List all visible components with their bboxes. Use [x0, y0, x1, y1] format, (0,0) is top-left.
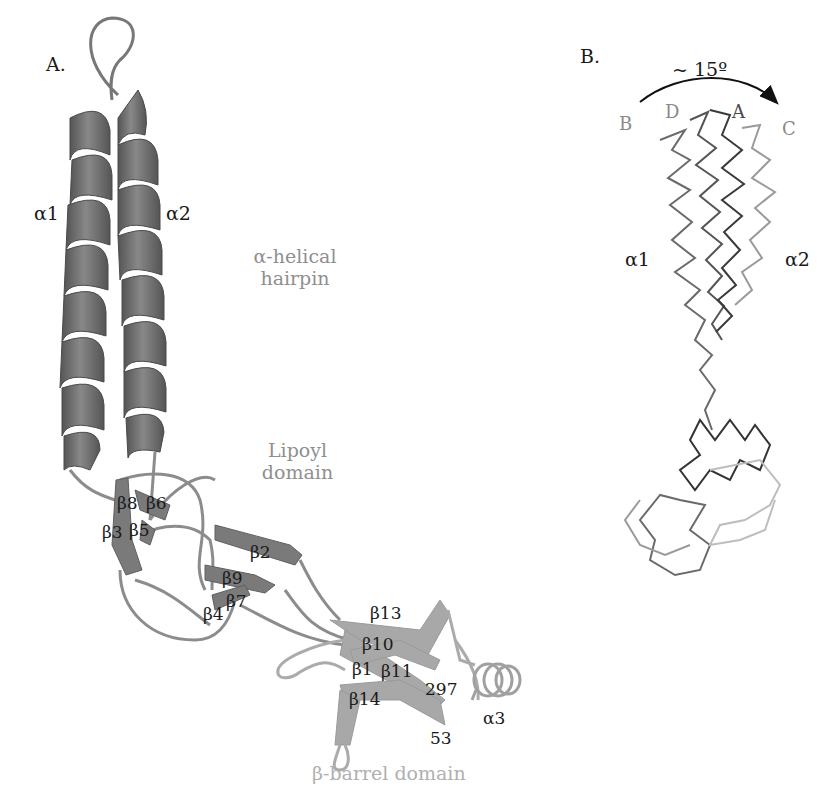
lower-domain-mid — [640, 495, 710, 575]
lipoyl-line1: Lipoyl — [255, 440, 340, 462]
alpha3-label: α3 — [483, 710, 505, 727]
hairpin-line2: hairpin — [245, 268, 345, 290]
chain-d-trace — [690, 112, 724, 340]
residue-53: 53 — [430, 730, 452, 747]
lipoyl-domain-label: Lipoyl domain — [255, 440, 340, 484]
chain-b-trace — [660, 130, 715, 430]
strand-b3: β3 — [102, 524, 123, 541]
strand-b10: β10 — [362, 636, 393, 653]
rotation-arrow — [640, 78, 776, 102]
strand-b5: β5 — [129, 522, 150, 539]
residue-297: 297 — [425, 681, 457, 698]
panel-b-label: B. — [580, 47, 600, 66]
alpha-helical-hairpin-label: α-helical hairpin — [245, 246, 345, 290]
panel-a-label: A. — [46, 55, 66, 74]
hairpin-line1: α-helical — [245, 246, 345, 268]
chain-b-label: B — [619, 115, 632, 133]
strand-b11: β11 — [381, 663, 412, 680]
strand-b7: β7 — [226, 593, 247, 610]
chain-c-label: C — [782, 120, 796, 138]
chain-a-label: A — [732, 103, 745, 121]
strand-b14: β14 — [349, 691, 380, 708]
panel-b-alpha1-label: α1 — [625, 250, 650, 269]
strand-b9: β9 — [222, 570, 243, 587]
chain-d-label: D — [665, 103, 679, 121]
rotation-angle-label: ~ 15º — [672, 60, 727, 79]
panel-b-superposition — [0, 0, 835, 805]
strand-b1: β1 — [352, 661, 373, 678]
alpha1-label: α1 — [34, 204, 59, 223]
strand-b2: β2 — [250, 544, 271, 561]
strand-b13: β13 — [370, 605, 401, 622]
lower-domain-dark — [680, 420, 770, 490]
panel-b-alpha2-label: α2 — [785, 250, 810, 269]
beta-barrel-domain-label: β-barrel domain — [312, 763, 466, 785]
strand-b6: β6 — [146, 495, 167, 512]
strand-b4: β4 — [203, 606, 224, 623]
lipoyl-line2: domain — [255, 462, 340, 484]
alpha2-label: α2 — [166, 204, 191, 223]
strand-b8: β8 — [117, 495, 138, 512]
lower-domain-light — [710, 460, 780, 545]
